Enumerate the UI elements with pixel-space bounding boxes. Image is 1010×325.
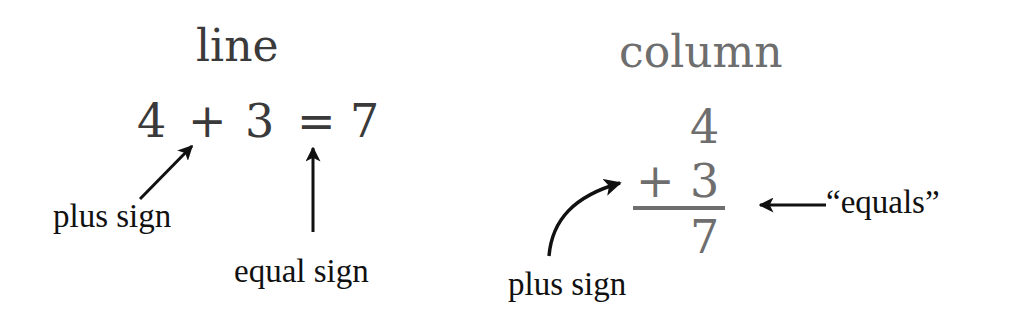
column-plus-curved-arrow-icon bbox=[549, 183, 620, 256]
line-plus-arrow-icon bbox=[140, 146, 192, 199]
annotation-arrows bbox=[0, 0, 1010, 325]
